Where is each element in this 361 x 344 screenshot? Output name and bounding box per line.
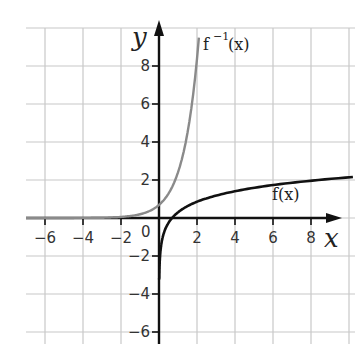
f-inverse-label-base: f	[203, 35, 210, 54]
f-inverse-curve	[26, 38, 199, 218]
y-tick-label: 6	[140, 95, 150, 113]
x-axis-label: x	[324, 223, 339, 253]
y-axis-label: y	[131, 22, 147, 52]
f-inverse-label-arg: (x)	[228, 35, 250, 54]
f-inverse-label: f −1 (x)	[203, 30, 250, 54]
y-tick-label: −2	[128, 247, 150, 265]
x-tick-label: 2	[192, 229, 202, 247]
y-tick-label: 2	[140, 171, 150, 189]
x-axis-arrow-icon	[326, 213, 342, 223]
f-inverse-label-sup: −1	[213, 30, 229, 43]
x-tick-label: −4	[72, 229, 94, 247]
x-tick-label: 6	[268, 229, 278, 247]
function-inverse-graph: −6−4−224688642−2−4−6 y x 0 f(x) f −1 (x)	[0, 0, 361, 344]
x-tick-label: 4	[230, 229, 240, 247]
origin-label: 0	[141, 223, 151, 241]
y-tick-label: −6	[128, 323, 150, 341]
x-tick-label: −6	[34, 229, 56, 247]
y-tick-label: 4	[140, 133, 150, 151]
x-tick-label: 8	[306, 229, 316, 247]
x-tick-label: −2	[110, 229, 132, 247]
grid	[26, 28, 355, 344]
y-tick-label: 8	[140, 57, 150, 75]
y-tick-label: −4	[128, 285, 150, 303]
f-label: f(x)	[272, 185, 299, 204]
